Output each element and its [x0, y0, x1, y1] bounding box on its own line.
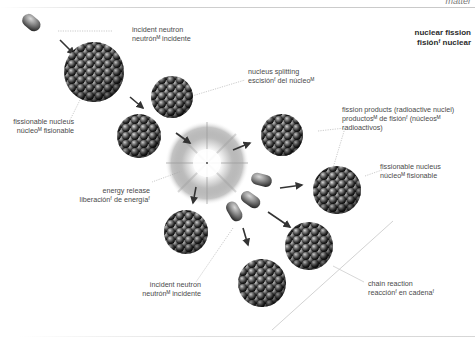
fission-product-upper [261, 114, 303, 156]
label-incident-neutron-top: incident neutron neutrónᴹ incidente [132, 25, 191, 43]
label-en: incident neutron [120, 280, 201, 289]
label-fissionable-nucleus-left: fissionable nucleus núcleoᴹ fisionable [12, 117, 74, 135]
label-es: neutrónᴹ incidente [132, 34, 191, 43]
label-nucleus-splitting: nucleus splitting escisiónᶠ del núcleoᴹ [248, 67, 314, 85]
label-es: núcleoᴹ fisionable [12, 126, 74, 135]
label-es: neutrónᴹ incidente [120, 289, 201, 298]
neutron-incident-top [19, 11, 43, 34]
label-es: liberaciónᶠ de energíaᶠ [70, 195, 150, 204]
nucleus-fissionable-left [64, 42, 124, 102]
label-es: escisiónᶠ del núcleoᴹ [248, 76, 314, 85]
neutron-released-1 [250, 171, 273, 188]
label-es-line2: radioactivos) [342, 123, 454, 132]
neutron-released-2 [239, 189, 263, 211]
neutron-released-3 [224, 199, 245, 223]
fission-product-lower [164, 210, 208, 254]
label-en: incident neutron [132, 25, 191, 34]
label-en: fission products (radioactive nuclei) [342, 105, 454, 114]
label-en: fissionable nucleus [380, 162, 441, 171]
label-chain-reaction: chain reaction reacciónᶠ en cadenaᶠ [368, 279, 434, 297]
bottom-rule [20, 336, 475, 337]
nucleus-splitting-lower [117, 114, 161, 158]
chain-reaction-leader [333, 266, 364, 282]
label-energy-release: energy release liberaciónᶠ de energíaᶠ [70, 186, 150, 204]
label-es: núcleoᴹ fisionable [380, 171, 441, 180]
label-en: energy release [70, 186, 150, 195]
label-es-line1: productosᴹ de fisiónᶠ (núcleosᴹ [342, 114, 454, 123]
label-fission-products: fission products (radioactive nuclei) pr… [342, 105, 454, 132]
label-en: chain reaction [368, 279, 434, 288]
label-fissionable-nucleus-right: fissionable nucleus núcleoᴹ fisionable [380, 162, 441, 180]
nucleus-fissionable-right [313, 166, 361, 214]
nucleus-splitting-upper [151, 76, 193, 118]
label-en: fissionable nucleus [12, 117, 74, 126]
label-es: reacciónᶠ en cadenaᶠ [368, 288, 434, 297]
label-en: nucleus splitting [248, 67, 314, 76]
nucleus-chain-bottom [238, 259, 286, 307]
label-incident-neutron-bottom: incident neutron neutrónᴹ incidente [120, 280, 201, 298]
nucleus-chain-middle [285, 222, 333, 270]
